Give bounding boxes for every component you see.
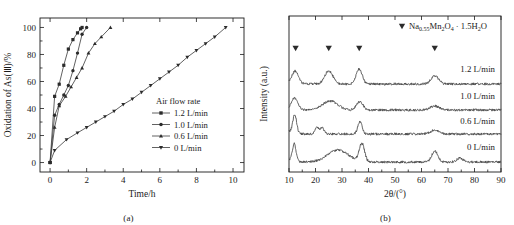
x-tick-label: 60 [417, 175, 427, 185]
data-point [67, 84, 70, 87]
x-tick-label: 2 [84, 175, 89, 185]
data-point [76, 131, 80, 134]
data-point [58, 83, 61, 86]
panel-b-xrd-chart: 1020304050607080902θ/(°)Intensity (a.u.)… [257, 0, 514, 225]
legend-label-0: 1.2 L/min [174, 108, 209, 118]
data-point [71, 38, 74, 41]
x-axis-title: 2θ/(°) [384, 189, 406, 200]
annotation-formula: Na0.55Mn2O4 · 1.5H2O [409, 21, 487, 32]
x-axis-title: Time/h [128, 189, 155, 199]
y-axis-title: Intensity (a.u.) [259, 66, 270, 122]
peak-marker-icon-0 [293, 46, 299, 52]
y-tick-label: 80 [27, 50, 37, 60]
x-tick-label: 90 [497, 175, 507, 185]
x-tick-label: 40 [364, 175, 374, 185]
x-tick-label: 4 [121, 175, 126, 185]
x-tick-label: 10 [229, 175, 239, 185]
legend-marker [159, 123, 163, 127]
data-point [62, 64, 65, 67]
y-tick-label: 60 [27, 77, 37, 87]
data-point [80, 66, 84, 69]
annotation-marker-icon [399, 24, 405, 30]
legend-label-1: 1.0 L/min [174, 120, 209, 130]
panel-a-caption: (a) [0, 213, 257, 223]
legend-title: Air flow rate [156, 96, 201, 106]
x-tick-label: 6 [158, 175, 163, 185]
data-point [94, 121, 98, 124]
data-point [76, 51, 79, 54]
data-point [85, 26, 88, 29]
data-point [53, 95, 56, 98]
xrd-curve-label-0: 1.2 L/min [460, 64, 495, 74]
peak-marker-icon-2 [356, 46, 362, 52]
xrd-curve-label-3: 0 L/min [467, 142, 496, 152]
data-point [80, 26, 83, 29]
data-point [71, 69, 74, 72]
y-tick-label: 0 [32, 158, 37, 168]
figure-root: 0246810020406080100Time/hOxidation of As… [0, 0, 514, 225]
panel-a-content: 0246810020406080100Time/hOxidation of As… [3, 18, 244, 199]
panel-a-oxidation-chart: 0246810020406080100Time/hOxidation of As… [0, 0, 257, 225]
data-point [103, 115, 107, 118]
x-tick-label: 8 [194, 175, 199, 185]
peak-marker-icon-1 [326, 46, 332, 52]
panel-b-caption: (b) [257, 213, 514, 223]
y-tick-label: 20 [27, 131, 37, 141]
x-tick-label: 20 [311, 175, 321, 185]
data-point [76, 31, 79, 34]
legend-marker [159, 111, 162, 114]
panel-b-content: 1020304050607080902θ/(°)Intensity (a.u.)… [259, 16, 506, 200]
series-line-2 [50, 27, 110, 162]
data-point [67, 47, 70, 50]
xrd-curve-label-2: 0.6 L/min [460, 116, 495, 126]
y-axis-title: Oxidation of As(Ⅲ)/% [3, 53, 14, 138]
peak-marker-icon-3 [432, 46, 438, 52]
data-point [53, 114, 56, 117]
x-tick-label: 80 [470, 175, 480, 185]
data-point [53, 149, 57, 152]
x-tick-label: 50 [391, 175, 401, 185]
y-tick-label: 100 [23, 23, 37, 33]
data-point [75, 75, 79, 78]
y-tick-label: 40 [27, 104, 37, 114]
data-point [112, 110, 116, 113]
x-tick-label: 10 [285, 175, 295, 185]
x-tick-label: 30 [338, 175, 348, 185]
x-tick-label: 0 [48, 175, 53, 185]
data-point [130, 98, 134, 101]
x-tick-label: 70 [444, 175, 454, 185]
xrd-curve-label-1: 1.0 L/min [460, 91, 495, 101]
legend-label-3: 0 L/min [174, 143, 202, 153]
data-point [109, 25, 113, 28]
legend-label-2: 0.6 L/min [174, 131, 209, 141]
oxidation-plot-svg: 0246810020406080100Time/hOxidation of As… [0, 0, 257, 225]
plot-frame [40, 18, 244, 172]
data-point [85, 126, 89, 129]
data-point [80, 33, 83, 36]
xrd-plot-svg: 1020304050607080902θ/(°)Intensity (a.u.)… [257, 0, 514, 225]
